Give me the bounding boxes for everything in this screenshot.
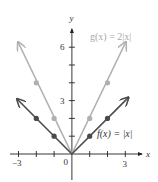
x-axis: x −3 0 3	[10, 149, 150, 169]
f-line	[17, 99, 72, 154]
y-axis: y 3 6	[60, 13, 75, 180]
x-axis-label: x	[145, 149, 150, 159]
f-label: f(x) = |x|	[97, 128, 133, 140]
y-tick-label-6: 6	[60, 42, 65, 52]
absolute-value-graph: x −3 0 3 y 3 6 g(x) = 2|x|	[0, 0, 158, 182]
f-line	[72, 97, 129, 154]
y-tick-label-3: 3	[60, 96, 65, 106]
series-f: f(x) = |x|	[17, 97, 133, 154]
x-tick-label-neg3: −3	[12, 158, 22, 168]
y-axis-label: y	[69, 13, 74, 23]
x-tick-label-0: 0	[64, 157, 69, 167]
g-label: g(x) = 2|x|	[90, 31, 131, 43]
x-tick-label-3: 3	[123, 159, 128, 169]
